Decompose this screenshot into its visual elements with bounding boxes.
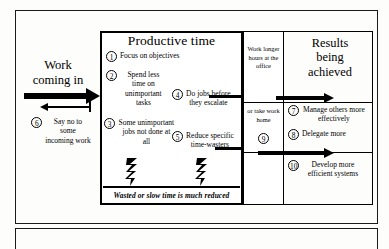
diagram-canvas: Work coming in 6 Say no to some incoming… <box>0 0 389 249</box>
item-5-number: 5 <box>172 131 183 142</box>
item-8-text: Delegate more <box>302 129 346 138</box>
results-arrow-lower-shaft <box>258 151 324 155</box>
incoming-arrow-shaft <box>24 93 86 99</box>
results-arrow-upper-head <box>324 93 334 103</box>
say-no-arrow-head <box>40 103 48 111</box>
item-4-number: 4 <box>172 89 183 100</box>
middle-cell-work-longer: Work longer hours at the office <box>243 45 284 71</box>
item-4-text: Do jobs before they escalate <box>186 89 231 108</box>
work-coming-in-line1: Work <box>16 58 100 73</box>
bottom-strip <box>15 228 378 249</box>
results-arrow-upper-shaft <box>276 96 324 100</box>
item-4: 4 Do jobs before they escalate <box>172 89 238 108</box>
item-3-number: 3 <box>104 118 115 129</box>
item-2-number: 2 <box>106 70 117 81</box>
results-title-line1: Results <box>284 36 376 50</box>
item-1: 1 Focus on objectives <box>106 51 238 62</box>
middle-cell-work-longer-text: Work longer hours at the office <box>248 45 280 69</box>
item-8: 8 Delegate more <box>288 129 374 140</box>
item-7: 7 Manage others more effectively <box>288 105 374 124</box>
work-coming-in-line2: coming in <box>16 73 100 88</box>
item-9-number: 9 <box>258 133 269 144</box>
lightning-bolt-left-icon <box>124 158 138 186</box>
results-title-line3: achieved <box>284 65 376 79</box>
item-7-number: 7 <box>288 105 299 116</box>
item-5-connector <box>215 147 245 150</box>
middle-column-divider-1 <box>243 102 284 103</box>
results-title: Results being achieved <box>284 36 376 79</box>
middle-cell-take-work-home: or take work home <box>243 107 284 124</box>
results-arrow-lower-head <box>324 148 334 158</box>
say-no-arrow-stem <box>89 101 92 112</box>
say-no-arrow-shaft <box>48 106 91 109</box>
item-10: 10 Develop more efficient systems <box>288 160 374 179</box>
item-3-text: Some unimportant jobs not done at all <box>118 118 175 146</box>
item-6: 6 Say no to some incoming work <box>27 117 95 145</box>
item-1-text: Focus on objectives <box>120 51 180 60</box>
item-9: 9 <box>243 133 284 144</box>
wasted-time-text: Wasted or slow time is much reduced <box>114 191 230 200</box>
item-3: 3 Some unimportant jobs not done at all <box>104 118 176 146</box>
item-10-number: 10 <box>288 160 299 171</box>
middle-cell-take-work-home-text: or take work home <box>247 107 279 123</box>
productive-time-title: Productive time <box>100 33 243 49</box>
results-title-line2: being <box>284 50 376 64</box>
item-8-number: 8 <box>288 129 299 140</box>
item-2: 2 Spend less time on unimportant tasks <box>106 70 168 107</box>
lightning-bolt-right-icon <box>194 158 208 186</box>
item-1-number: 1 <box>106 51 117 62</box>
item-2-text: Spend less time on unimportant tasks <box>120 70 167 107</box>
wasted-time-band: Wasted or slow time is much reduced <box>103 186 241 202</box>
item-6-number: 6 <box>31 117 42 128</box>
item-4-connector <box>209 95 245 98</box>
work-coming-in-label: Work coming in <box>16 58 100 87</box>
item-10-text: Develop more efficient systems <box>302 160 364 179</box>
item-7-text: Manage others more effectively <box>302 105 366 124</box>
item-6-text: Say no to some incoming work <box>45 117 91 145</box>
